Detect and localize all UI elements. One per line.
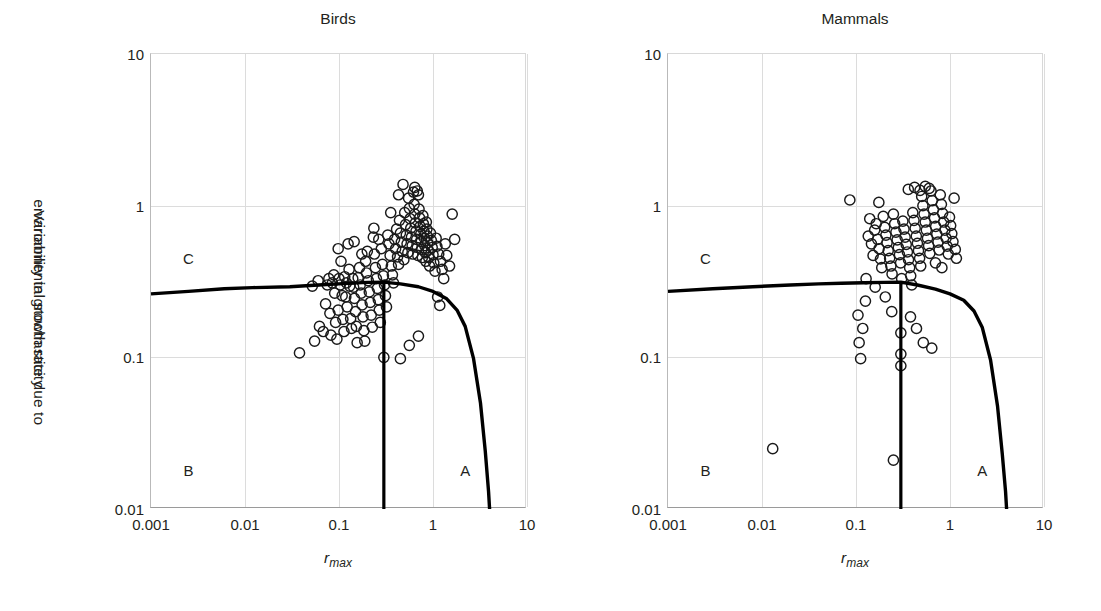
x-tick-label: 0.001 xyxy=(132,516,170,533)
scatter-point xyxy=(874,197,884,207)
scatter-point xyxy=(447,209,457,219)
x-tick-label: 0.1 xyxy=(329,516,350,533)
scatter-point xyxy=(856,354,866,364)
y-tick-label: 0.01 xyxy=(115,501,144,518)
scatter-point xyxy=(439,274,449,284)
scatter-point xyxy=(860,296,870,306)
scatter-point xyxy=(320,299,330,309)
y-axis-label-line2: environmental stochasticity xyxy=(27,186,49,401)
scatter-point xyxy=(309,336,319,346)
threshold-curve xyxy=(151,282,490,509)
y-tick-label: 1 xyxy=(136,197,144,214)
region-label-b: B xyxy=(700,462,710,479)
x-tick-label: 1 xyxy=(429,516,437,533)
scatter-point xyxy=(878,211,888,221)
y-tick-label: 0.01 xyxy=(632,501,661,518)
threshold-curve xyxy=(668,282,1007,509)
scatter-point xyxy=(404,340,414,350)
scatter-point xyxy=(853,310,863,320)
x-axis-label-subscript: max xyxy=(329,556,352,570)
plot-graphics-layer xyxy=(151,54,527,509)
region-label-a: A xyxy=(460,462,470,479)
y-tick-label: 10 xyxy=(644,46,661,63)
x-gridline xyxy=(527,54,528,507)
x-tick-label: 10 xyxy=(519,516,536,533)
x-tick-label: 0.01 xyxy=(747,516,776,533)
region-label-a: A xyxy=(977,462,987,479)
scatter-point xyxy=(935,190,945,200)
scatter-point xyxy=(376,244,386,254)
x-axis-label: rmax xyxy=(668,549,1042,570)
scatter-point xyxy=(413,331,423,341)
x-tick-label: 10 xyxy=(1036,516,1053,533)
x-axis-label-subscript: max xyxy=(846,556,869,570)
region-label-b: B xyxy=(183,462,193,479)
scatter-point xyxy=(386,208,396,218)
y-tick-label: 0.1 xyxy=(123,349,144,366)
x-gridline xyxy=(1044,54,1045,507)
x-tick-label: 0.1 xyxy=(846,516,867,533)
scatter-point xyxy=(360,336,370,346)
scatter-point xyxy=(450,234,460,244)
plot-area-birds: 0.0010.010.11100.010.1110rmaxABC xyxy=(150,53,526,508)
scatter-point xyxy=(333,244,343,254)
scatter-point xyxy=(888,455,898,465)
plot-area-mammals: 0.0010.010.11100.010.1110rmaxABC xyxy=(667,53,1043,508)
y-tick-label: 0.1 xyxy=(640,349,661,366)
scatter-point xyxy=(398,179,408,189)
y-tick-label: 1 xyxy=(653,197,661,214)
x-tick-label: 0.001 xyxy=(649,516,687,533)
scatter-point xyxy=(768,444,778,454)
scatter-point xyxy=(858,323,868,333)
y-tick-label: 10 xyxy=(127,46,144,63)
scatter-point xyxy=(845,195,855,205)
scatter-point xyxy=(887,307,897,317)
x-tick-label: 1 xyxy=(946,516,954,533)
scatter-point xyxy=(349,236,359,246)
scatter-point xyxy=(294,348,304,358)
scatter-point xyxy=(393,190,403,200)
scatter-point xyxy=(916,261,926,271)
scatter-point xyxy=(354,263,364,273)
scatter-point xyxy=(854,338,864,348)
scatter-point xyxy=(949,193,959,203)
scatter-point xyxy=(905,312,915,322)
scatter-point xyxy=(927,343,937,353)
scatter-point xyxy=(888,209,898,219)
scatter-point xyxy=(903,184,913,194)
x-axis-label: rmax xyxy=(151,549,525,570)
scatter-point xyxy=(395,354,405,364)
scatter-point xyxy=(336,256,346,266)
scatter-point xyxy=(880,292,890,302)
x-tick-label: 0.01 xyxy=(230,516,259,533)
panel-title-birds: Birds xyxy=(150,10,526,28)
region-label-c: C xyxy=(183,250,194,267)
scatter-point xyxy=(343,239,353,249)
scatter-point xyxy=(911,323,921,333)
region-label-c: C xyxy=(700,250,711,267)
figure-root: Variability in growth rate due to enviro… xyxy=(0,0,1101,611)
panel-title-mammals: Mammals xyxy=(667,10,1043,28)
y-axis-label: Variability in growth rate due to enviro… xyxy=(8,0,68,611)
plot-graphics-layer xyxy=(668,54,1044,509)
